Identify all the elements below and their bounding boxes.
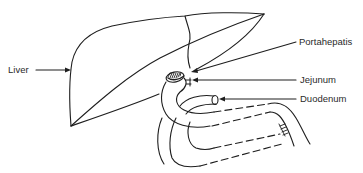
bowel-loops: [158, 103, 310, 167]
jejunum-limb: [162, 78, 215, 127]
portahepatis-stoma: [165, 70, 185, 84]
liver-intestine-illustration: [0, 0, 363, 173]
label-jejunum: Jejunum: [300, 75, 336, 85]
label-portahepatis: Portahepatis: [299, 37, 352, 47]
diagram-canvas: Liver Portahepatis Jejunum Duodenum: [0, 0, 363, 173]
label-duodenum: Duodenum: [300, 94, 346, 104]
label-liver: Liver: [8, 65, 29, 75]
leader-lines: [36, 42, 296, 102]
liver-shape: [70, 13, 264, 126]
